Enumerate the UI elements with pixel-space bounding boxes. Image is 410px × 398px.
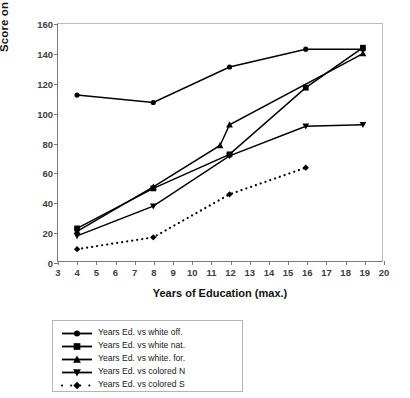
data-point	[74, 246, 80, 252]
y-tick-mark	[54, 233, 58, 234]
y-tick-label: 120	[37, 78, 53, 89]
x-tick-label: 10	[187, 267, 198, 278]
x-tick-label: 4	[75, 267, 80, 278]
legend-label: Years Ed. vs colored N	[98, 365, 185, 378]
data-point	[74, 233, 81, 239]
x-tick-mark	[173, 261, 174, 265]
legend-item[interactable]: Years Ed. vs white nat.	[60, 339, 242, 352]
x-tick-label: 6	[113, 267, 118, 278]
x-tick-mark	[307, 261, 308, 265]
data-point	[360, 45, 366, 51]
x-tick-mark	[58, 261, 59, 265]
x-tick-mark	[250, 261, 251, 265]
x-tick-label: 16	[302, 267, 313, 278]
y-tick-mark	[54, 84, 58, 85]
y-tick-label: 160	[37, 19, 53, 30]
y-axis-title: Score on Army Mental Test	[0, 0, 10, 52]
y-tick-mark	[54, 173, 58, 174]
data-point	[303, 165, 309, 171]
x-tick-label: 19	[360, 267, 371, 278]
y-tick-label: 140	[37, 48, 53, 59]
x-tick-label: 9	[170, 267, 175, 278]
x-tick-mark	[192, 261, 193, 265]
circle-marker	[60, 326, 94, 339]
chart-figure: 0204060801001201401603456789101112131415…	[0, 0, 410, 398]
series-4	[74, 122, 367, 239]
x-tick-label: 12	[225, 267, 236, 278]
data-point	[303, 47, 308, 52]
y-tick-mark	[54, 114, 58, 115]
x-tick-label: 3	[55, 267, 60, 278]
x-tick-mark	[288, 261, 289, 265]
legend-item[interactable]: Years Ed. vs colored S	[60, 378, 242, 391]
plot-area: 0204060801001201401603456789101112131415…	[57, 23, 383, 262]
x-tick-mark	[211, 261, 212, 265]
series-line	[77, 125, 363, 236]
x-tick-mark	[269, 261, 270, 265]
y-tick-label: 0	[48, 258, 53, 269]
x-tick-mark	[116, 261, 117, 265]
x-tick-label: 17	[321, 267, 332, 278]
data-point	[226, 121, 233, 127]
y-tick-label: 60	[42, 168, 53, 179]
x-tick-mark	[326, 261, 327, 265]
data-point	[150, 234, 156, 240]
x-tick-mark	[77, 261, 78, 265]
legend-item[interactable]: Years Ed. vs colored N	[60, 365, 242, 378]
y-tick-label: 40	[42, 198, 53, 209]
triangle-up-marker	[60, 352, 94, 365]
x-tick-label: 13	[244, 267, 255, 278]
square-marker	[60, 339, 94, 352]
x-tick-label: 7	[132, 267, 137, 278]
x-tick-label: 5	[94, 267, 99, 278]
x-tick-label: 8	[151, 267, 156, 278]
x-tick-label: 18	[340, 267, 351, 278]
x-tick-label: 11	[206, 267, 216, 278]
diamond-marker	[60, 378, 94, 391]
triangle-down-marker	[60, 365, 94, 378]
x-tick-mark	[365, 261, 366, 265]
legend-label: Years Ed. vs white nat.	[98, 339, 185, 352]
series-layer	[58, 24, 382, 261]
x-tick-label: 15	[283, 267, 294, 278]
legend-label: Years Ed. vs white. for.	[98, 352, 185, 365]
y-tick-label: 20	[42, 228, 53, 239]
chart-title	[0, 0, 410, 7]
series-line	[77, 168, 306, 249]
legend-item[interactable]: Years Ed. vs white off.	[60, 326, 242, 339]
x-tick-mark	[346, 261, 347, 265]
data-point	[227, 64, 232, 69]
y-tick-label: 80	[42, 138, 53, 149]
x-tick-mark	[231, 261, 232, 265]
data-point	[151, 100, 156, 105]
series-2	[74, 45, 366, 231]
series-line	[77, 48, 363, 229]
x-tick-mark	[135, 261, 136, 265]
y-tick-mark	[54, 203, 58, 204]
y-tick-mark	[54, 144, 58, 145]
x-tick-label: 14	[264, 267, 275, 278]
x-tick-mark	[96, 261, 97, 265]
y-tick-label: 100	[37, 108, 53, 119]
legend-label: Years Ed. vs colored S	[98, 378, 185, 391]
data-point	[217, 142, 224, 148]
legend-label: Years Ed. vs white off.	[98, 326, 183, 339]
x-axis-title: Years of Education (max.)	[57, 287, 383, 299]
data-point	[74, 93, 79, 98]
x-tick-label: 20	[379, 267, 390, 278]
chart-legend: Years Ed. vs white off.Years Ed. vs whit…	[52, 320, 243, 392]
x-tick-mark	[384, 261, 385, 265]
y-tick-mark	[54, 24, 58, 25]
data-point	[360, 50, 367, 56]
legend-item[interactable]: Years Ed. vs white. for.	[60, 352, 242, 365]
y-tick-mark	[54, 54, 58, 55]
series-5	[74, 165, 309, 253]
x-tick-mark	[154, 261, 155, 265]
